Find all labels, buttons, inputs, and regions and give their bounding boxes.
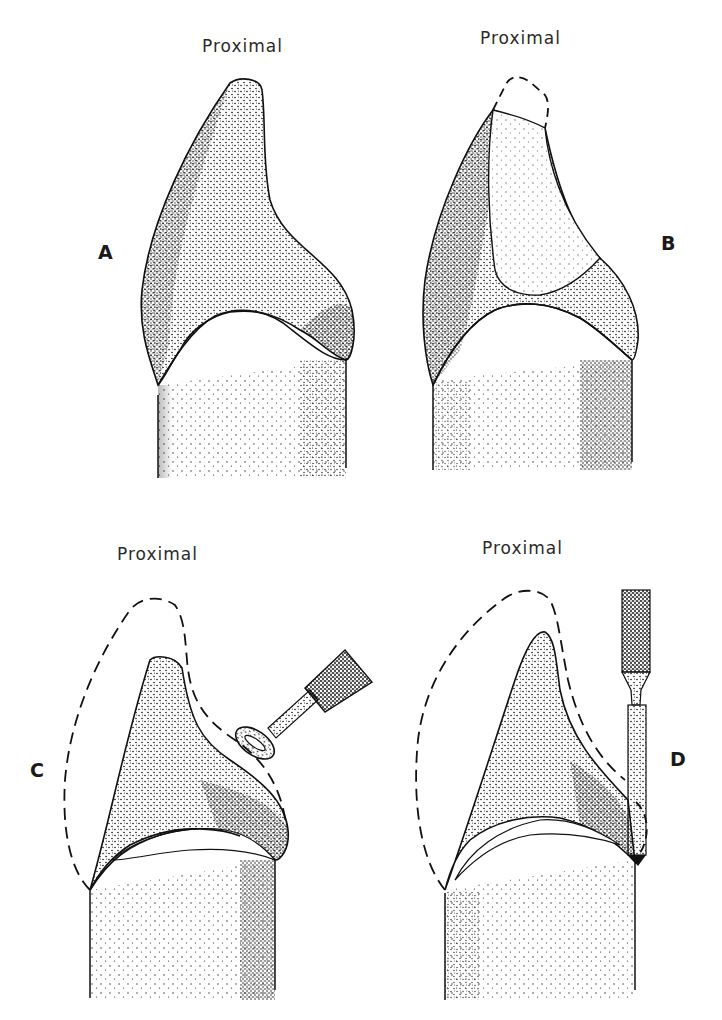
panel-c-heading: Proximal	[117, 544, 198, 564]
panel-b-drawing	[423, 77, 638, 470]
panel-d-letter: D	[670, 748, 686, 770]
panel-c-drawing	[64, 599, 372, 1000]
panel-a-drawing	[141, 79, 354, 478]
panel-c-letter: C	[30, 759, 44, 781]
panel-a-letter: A	[98, 241, 113, 263]
panel-b-heading: Proximal	[480, 28, 561, 48]
disk-instrument	[230, 650, 372, 765]
illustration-canvas	[0, 0, 722, 1020]
panel-d-heading: Proximal	[482, 538, 563, 558]
figure: Proximal Proximal Proximal Proximal A B …	[0, 0, 722, 1020]
crown	[445, 632, 635, 890]
panel-b-letter: B	[661, 232, 675, 254]
panel-d-drawing	[416, 590, 650, 1000]
panel-a-heading: Proximal	[202, 36, 283, 56]
